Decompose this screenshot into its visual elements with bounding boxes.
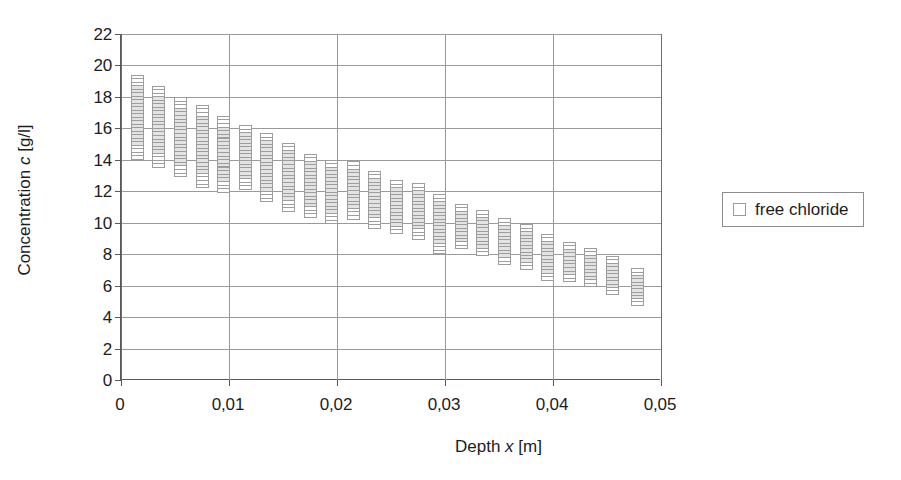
y-tick-label: 0 [78,372,112,389]
x-tick-label: 0,02 [301,396,371,413]
data-marker [433,250,446,255]
data-column [217,116,230,193]
data-column [196,105,209,188]
data-column [563,242,576,283]
gridline-vertical [661,34,662,380]
data-marker [606,290,619,295]
data-marker [325,220,338,225]
data-marker [584,283,597,288]
data-column [584,248,597,287]
x-axis-title: Depth x [m] [455,437,715,457]
data-column [541,234,554,281]
x-axis-tick-labels: 00,010,020,030,040,05 [0,396,901,420]
data-column [304,154,317,218]
data-marker [563,278,576,283]
tick-mark-x [337,380,338,386]
data-marker [196,184,209,189]
y-axis-title-suffix: [g/l] [15,124,34,156]
plot-area [120,34,660,380]
data-marker [390,229,403,234]
x-axis-title-symbol: x [505,437,514,456]
data-column [476,210,489,256]
data-column [325,160,338,224]
data-marker [174,173,187,178]
y-axis-title: Concentration c [g/l] [15,70,35,330]
data-marker [476,251,489,256]
data-marker [498,261,511,266]
data-column [152,86,165,168]
data-marker [631,301,644,306]
data-marker [520,265,533,270]
tick-mark-x [229,380,230,386]
legend-marker-icon [733,203,746,216]
chart-legend: free chloride [722,192,864,227]
data-column [282,143,295,212]
x-tick-label: 0,01 [193,396,263,413]
data-marker [304,213,317,218]
data-marker [455,245,468,250]
data-column [260,133,273,202]
data-marker [541,276,554,281]
data-column [131,75,144,160]
data-marker [239,185,252,190]
y-tick-label: 8 [78,246,112,263]
y-tick-label: 20 [78,57,112,74]
data-marker [152,163,165,168]
tick-mark-x [445,380,446,386]
data-column [390,180,403,233]
data-marker [412,235,425,240]
x-axis-title-suffix: [m] [514,437,542,456]
y-axis-title-symbol: c [15,157,34,166]
data-series-free-chloride [121,34,661,380]
data-column [368,171,381,229]
data-column [606,256,619,295]
data-marker [282,207,295,212]
data-marker [217,188,230,193]
data-column [455,204,468,250]
tick-mark-x [121,380,122,386]
data-column [174,97,187,177]
x-tick-label: 0 [85,396,155,413]
data-column [347,161,360,219]
y-tick-label: 16 [78,120,112,137]
y-tick-label: 2 [78,341,112,358]
data-column [631,268,644,306]
x-tick-label: 0,04 [517,396,587,413]
tick-mark-x [553,380,554,386]
data-marker [347,215,360,220]
data-marker [368,224,381,229]
data-column [433,194,446,254]
y-tick-label: 14 [78,152,112,169]
y-tick-label: 12 [78,183,112,200]
y-tick-label: 22 [78,26,112,43]
x-tick-label: 0,05 [625,396,695,413]
tick-mark-x [661,380,662,386]
x-tick-label: 0,03 [409,396,479,413]
data-column [520,224,533,270]
y-tick-label: 18 [78,89,112,106]
data-column [498,218,511,265]
chart-figure: 0246810121416182022 00,010,020,030,040,0… [0,0,901,480]
data-column [412,183,425,240]
data-column [239,125,252,189]
y-tick-label: 6 [78,278,112,295]
y-axis-title-prefix: Concentration [15,165,34,276]
legend-entry-label: free chloride [755,201,849,218]
y-tick-label: 4 [78,309,112,326]
data-marker [131,155,144,160]
x-axis-title-prefix: Depth [455,437,505,456]
data-marker [260,198,273,203]
y-tick-label: 10 [78,215,112,232]
